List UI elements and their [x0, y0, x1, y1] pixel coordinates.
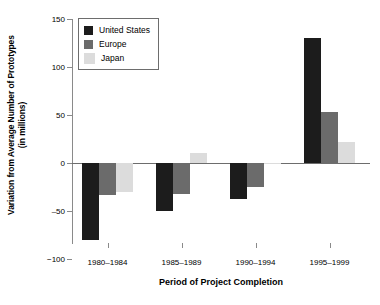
bar — [321, 112, 338, 163]
x-axis-tick-label: 1980–1984 — [87, 258, 127, 267]
bar — [173, 163, 190, 194]
legend-label: Europe — [99, 39, 126, 49]
legend-swatch — [84, 40, 93, 49]
x-axis-tick-mark — [256, 243, 257, 248]
y-axis-line — [72, 19, 73, 244]
legend-swatch — [84, 53, 95, 64]
bar — [338, 142, 355, 163]
x-axis-tick-label: 1990–1994 — [235, 258, 275, 267]
legend: United StatesEuropeJapan — [78, 18, 159, 70]
legend-swatch — [84, 26, 93, 35]
bar — [116, 163, 133, 192]
bar-chart: Variation from Average Number of Prototy… — [0, 0, 380, 305]
y-axis-tick-mark — [67, 67, 72, 68]
x-axis-title: Period of Project Completion — [72, 277, 370, 287]
y-axis-tick-mark — [67, 115, 72, 116]
bar — [99, 163, 116, 195]
y-axis-tick-label: 50 — [56, 111, 65, 120]
y-axis-tick-label: 0 — [61, 159, 65, 168]
y-axis-tick-mark — [67, 19, 72, 20]
y-axis-tick-mark — [67, 259, 72, 260]
x-axis-tick-label: 1995–1999 — [309, 258, 349, 267]
legend-label: United States — [99, 25, 150, 35]
y-axis-title-line1: Variation from Average Number of Prototy… — [6, 35, 16, 215]
y-axis-title: Variation from Average Number of Prototy… — [0, 0, 34, 250]
x-axis-tick-mark — [108, 243, 109, 248]
legend-item: Europe — [84, 37, 150, 51]
bar — [82, 163, 99, 240]
y-axis-tick-label: ‒50 — [52, 207, 65, 216]
legend-item: United States — [84, 23, 150, 37]
x-axis-tick-mark — [330, 243, 331, 248]
y-axis-tick-label: −100 — [47, 255, 65, 264]
bar — [264, 163, 281, 164]
y-axis-tick-label: 100 — [52, 63, 65, 72]
legend-item: Japan — [84, 51, 150, 65]
y-axis-title-line2: (in millions) — [17, 35, 28, 215]
bar — [230, 163, 247, 199]
legend-label: Japan — [101, 53, 124, 63]
x-axis-tick-mark — [182, 243, 183, 248]
bar — [247, 163, 264, 187]
bar — [190, 153, 207, 163]
bar — [156, 163, 173, 211]
x-axis-tick-label: 1985–1989 — [161, 258, 201, 267]
y-axis-tick-label: 150 — [52, 15, 65, 24]
bar — [304, 38, 321, 163]
y-axis-tick-mark — [67, 211, 72, 212]
